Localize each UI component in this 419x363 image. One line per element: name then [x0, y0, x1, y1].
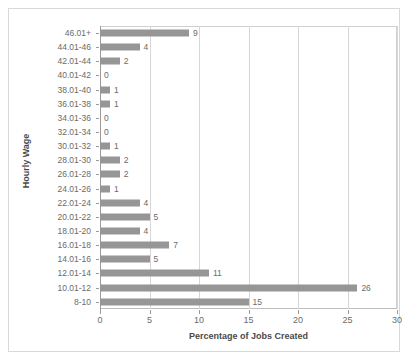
y-tick-label-text: 18.01-20	[57, 227, 91, 236]
bar-row: 4	[100, 40, 397, 54]
y-tick-mark	[96, 259, 99, 260]
y-tick-mark	[96, 104, 99, 105]
bar-row: 2	[100, 167, 397, 181]
bar	[100, 256, 150, 263]
bar-row: 9	[100, 26, 397, 40]
y-tick-label-text: 16.01-18	[57, 241, 91, 250]
bar	[100, 100, 110, 107]
y-tick-label: 44.01-46	[9, 40, 96, 54]
bar-value-label: 5	[154, 213, 159, 222]
y-tick-label: 46.01+	[9, 26, 96, 40]
gridline-30	[397, 26, 398, 309]
x-tick-mark	[298, 310, 299, 314]
y-tick-mark	[96, 33, 99, 34]
y-tick-label-text: 28.01-30	[57, 156, 91, 165]
y-tick-mark	[96, 231, 99, 232]
bar	[100, 284, 357, 291]
y-tick-label-text: 42.01-44	[57, 57, 91, 66]
y-tick-mark	[96, 245, 99, 246]
bar-row: 4	[100, 196, 397, 210]
bar-value-label: 7	[173, 241, 178, 250]
bar-value-label: 1	[114, 184, 119, 193]
bar-value-label: 1	[114, 100, 119, 109]
y-tick-label-text: 24.01-26	[57, 184, 91, 193]
x-tick-mark	[348, 310, 349, 314]
bar	[100, 58, 120, 65]
y-tick-mark	[96, 189, 99, 190]
bars-layer: 94201100122145475112615	[100, 26, 397, 309]
y-tick-mark	[96, 146, 99, 147]
y-tick-mark	[96, 174, 99, 175]
bar-row: 15	[100, 295, 397, 309]
y-tick-label-text: 40.01-42	[57, 71, 91, 80]
bar-row: 2	[100, 153, 397, 167]
y-tick-mark	[96, 118, 99, 119]
y-tick-label: 38.01-40	[9, 83, 96, 97]
y-tick-mark	[96, 203, 99, 204]
x-tick-label: 20	[293, 316, 303, 325]
y-tick-label: 10.01-12	[9, 281, 96, 295]
bar	[100, 228, 140, 235]
y-tick-mark	[96, 75, 99, 76]
y-tick-mark	[96, 160, 99, 161]
y-tick-mark	[96, 47, 99, 48]
y-tick-label: 8-10	[9, 295, 96, 309]
bar-row: 2	[100, 54, 397, 68]
bar-value-label: 11	[213, 269, 222, 278]
x-tick-mark	[150, 310, 151, 314]
x-tick-label: 30	[392, 316, 402, 325]
bar-value-label: 4	[144, 227, 149, 236]
y-tick-mark	[96, 132, 99, 133]
y-tick-mark	[96, 273, 99, 274]
x-tick-mark	[100, 310, 101, 314]
y-tick-label-text: 32.01-34	[57, 128, 91, 137]
y-tick-label: 16.01-18	[9, 238, 96, 252]
bar-row: 5	[100, 252, 397, 266]
x-tick-label: 10	[194, 316, 204, 325]
y-tick-mark	[96, 90, 99, 91]
y-tick-label-text: 10.01-12	[57, 283, 91, 292]
y-tick-label-text: 14.01-16	[57, 255, 91, 264]
y-axis-title: Hourly Wage	[21, 116, 31, 206]
bar-row: 0	[100, 111, 397, 125]
y-tick-mark	[96, 302, 99, 303]
y-tick-label-text: 30.01-32	[57, 142, 91, 151]
x-tick-label: 5	[147, 316, 152, 325]
bar-value-label: 4	[144, 43, 149, 52]
y-tick-label-text: 36.01-38	[57, 100, 91, 109]
y-tick-label-text: 8-10	[74, 297, 91, 306]
y-tick-label-text: 20.01-22	[57, 213, 91, 222]
y-tick-label: 40.01-42	[9, 68, 96, 82]
y-tick-mark	[96, 217, 99, 218]
y-tick-label-text: 34.01-36	[57, 114, 91, 123]
bar-row: 1	[100, 182, 397, 196]
bar-value-label: 5	[154, 255, 159, 264]
bar-value-label: 0	[104, 114, 109, 123]
bar-value-label: 4	[144, 199, 149, 208]
bar-row: 7	[100, 238, 397, 252]
bar	[100, 171, 120, 178]
bar-value-label: 1	[114, 142, 119, 151]
bar-row: 0	[100, 125, 397, 139]
bar	[100, 213, 150, 220]
bar	[100, 242, 169, 249]
y-tick-label-text: 38.01-40	[57, 85, 91, 94]
y-tick-label-text: 12.01-14	[57, 269, 91, 278]
chart-frame: 46.01+44.01-4642.01-4440.01-4238.01-4036…	[8, 8, 400, 352]
y-tick-label: 36.01-38	[9, 97, 96, 111]
bar-row: 1	[100, 83, 397, 97]
bar	[100, 270, 209, 277]
x-axis-title: Percentage of Jobs Created	[100, 331, 397, 341]
bar-row: 5	[100, 210, 397, 224]
bar-value-label: 0	[104, 71, 109, 80]
y-tick-label: 18.01-20	[9, 224, 96, 238]
y-tick-label-text: 44.01-46	[57, 43, 91, 52]
y-tick-label-text: 26.01-28	[57, 170, 91, 179]
bar-value-label: 15	[253, 297, 262, 306]
x-tick-mark	[199, 310, 200, 314]
x-tick-label: 15	[243, 316, 253, 325]
bar-value-label: 9	[193, 29, 198, 38]
y-tick-label: 42.01-44	[9, 54, 96, 68]
bar-row: 0	[100, 68, 397, 82]
bar	[100, 157, 120, 164]
